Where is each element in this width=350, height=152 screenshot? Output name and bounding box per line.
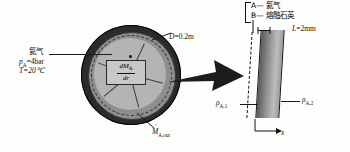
- wall-cross-section: [246, 30, 298, 120]
- technical-diagram-figure: dMA dr 氦气 pA=4bar T=20℃ D=0.2m M ˙ A,out…: [0, 0, 350, 152]
- x-axis-label: x: [281, 129, 284, 137]
- wall-thickness-label: L=2mm: [292, 25, 316, 33]
- quartz-wall-slab: [255, 30, 284, 118]
- density-inner-label: ρA,1: [216, 99, 227, 109]
- density-inner-leader-line: [240, 104, 258, 105]
- material-legend: A— 氦气 B— 熔融石英: [251, 1, 294, 21]
- mass-flux-gradient-box: dMA dr: [106, 60, 146, 85]
- mass-flux-denominator: dr: [123, 74, 129, 82]
- outflow-leader-line: [136, 112, 158, 130]
- inner-surface-dashed-line: [246, 32, 252, 118]
- radius-origin-dot: [129, 55, 132, 58]
- thickness-dimension-bracket: [256, 25, 290, 35]
- helium-gas-label: 氦气: [29, 48, 43, 56]
- density-outer-leader-line: [281, 101, 300, 102]
- legend-item-a: A— 氦气: [251, 1, 294, 11]
- diameter-leader-line: [151, 28, 173, 42]
- temperature-label: T=20℃: [19, 67, 44, 75]
- mass-flux-numerator: dMA: [117, 63, 134, 73]
- magnify-arrow-icon: [168, 56, 246, 96]
- helium-leader-line: [49, 54, 112, 55]
- density-outer-label: ρA,2: [302, 96, 313, 106]
